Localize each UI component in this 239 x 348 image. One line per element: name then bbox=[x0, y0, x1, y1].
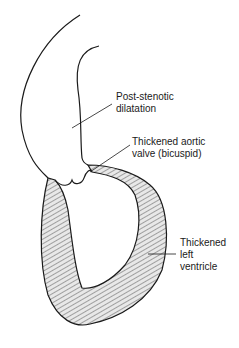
label-line: left bbox=[180, 249, 226, 261]
label-post-stenotic-dilatation: Post-stenotic dilatation bbox=[116, 91, 174, 115]
label-line: Thickened aortic bbox=[132, 136, 205, 148]
label-line: dilatation bbox=[116, 103, 174, 115]
label-line: Thickened bbox=[180, 237, 226, 249]
label-line: Post-stenotic bbox=[116, 91, 174, 103]
bicuspid-valve bbox=[55, 170, 92, 185]
label-thickened-left-ventricle: Thickened left ventricle bbox=[180, 237, 226, 273]
aorta-inner-wall bbox=[77, 46, 99, 165]
leader-post-stenotic bbox=[72, 104, 112, 128]
label-line: ventricle bbox=[180, 261, 226, 273]
left-ventricle-wall bbox=[41, 165, 166, 325]
label-thickened-aortic-valve: Thickened aortic valve (bicuspid) bbox=[132, 136, 205, 160]
label-line: valve (bicuspid) bbox=[132, 148, 205, 160]
heart-diagram bbox=[0, 0, 239, 348]
aorta-outer-wall bbox=[21, 15, 80, 178]
